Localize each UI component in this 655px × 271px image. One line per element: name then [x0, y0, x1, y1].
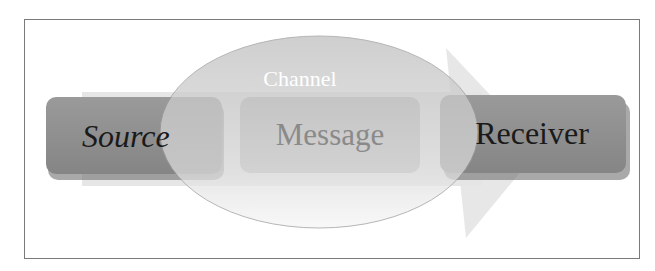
- message-label: Message: [276, 117, 384, 152]
- communication-diagram: Source Message Receiver Channel: [0, 0, 655, 271]
- channel-label: Channel: [263, 66, 336, 91]
- receiver-label: Receiver: [475, 115, 589, 151]
- source-label: Source: [82, 118, 170, 154]
